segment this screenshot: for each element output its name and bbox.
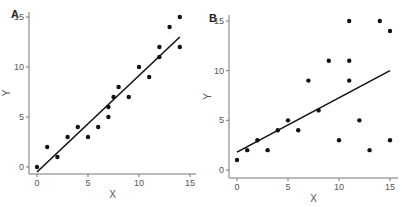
data-point — [276, 128, 280, 132]
data-point — [111, 95, 115, 99]
data-point — [347, 19, 351, 23]
data-point — [255, 138, 259, 142]
data-point — [106, 105, 110, 109]
y-tick-label: 0 — [19, 162, 24, 172]
data-point — [55, 155, 59, 159]
y-tick-label: 0 — [219, 165, 224, 175]
data-point — [96, 125, 100, 129]
data-point — [35, 165, 39, 169]
x-tick-label: 15 — [185, 178, 195, 188]
y-axis-title: Y — [1, 89, 12, 96]
x-tick-label: 10 — [134, 178, 144, 188]
data-point — [388, 29, 392, 33]
data-point — [286, 118, 290, 122]
data-point — [357, 118, 361, 122]
y-tick-label: 10 — [214, 66, 224, 76]
x-axis-title: X — [109, 189, 116, 200]
x-tick-label: 5 — [85, 178, 90, 188]
y-tick-label: 5 — [219, 115, 224, 125]
data-point — [127, 95, 131, 99]
data-point — [147, 75, 151, 79]
x-tick-label: 0 — [34, 178, 39, 188]
data-point — [347, 59, 351, 63]
data-point — [327, 59, 331, 63]
data-point — [157, 55, 161, 59]
data-point — [306, 78, 310, 82]
data-point — [265, 148, 269, 152]
y-axis-title: Y — [202, 93, 213, 100]
data-point — [167, 25, 171, 29]
data-point — [296, 128, 300, 132]
data-point — [316, 108, 320, 112]
y-tick-label: 15 — [14, 12, 24, 22]
data-point — [116, 85, 120, 89]
x-tick-label: 10 — [334, 182, 344, 192]
data-point — [378, 19, 382, 23]
x-tick-label: 0 — [234, 182, 239, 192]
data-point — [388, 138, 392, 142]
data-point — [76, 125, 80, 129]
data-point — [337, 138, 341, 142]
data-point — [178, 15, 182, 19]
x-tick-label: 15 — [385, 182, 395, 192]
x-tick-label: 5 — [285, 182, 290, 192]
scatter-plot-b: 051015051015XY — [201, 0, 403, 207]
regression-line — [237, 71, 390, 152]
data-point — [106, 115, 110, 119]
data-point — [86, 135, 90, 139]
y-tick-label: 5 — [19, 112, 24, 122]
scatter-plot-a: 051015051015XY — [0, 0, 201, 207]
data-point — [157, 45, 161, 49]
y-tick-label: 10 — [14, 62, 24, 72]
panel-a: A 051015051015XY — [0, 0, 201, 207]
x-axis-title: X — [310, 193, 317, 204]
data-point — [347, 78, 351, 82]
data-point — [137, 65, 141, 69]
data-point — [235, 158, 239, 162]
y-tick-label: 15 — [214, 16, 224, 26]
data-point — [178, 45, 182, 49]
panel-b: B 051015051015XY — [201, 0, 402, 207]
data-point — [45, 145, 49, 149]
data-point — [65, 135, 69, 139]
data-point — [367, 148, 371, 152]
data-point — [245, 148, 249, 152]
